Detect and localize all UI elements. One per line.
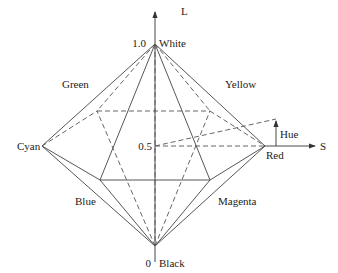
vertex-white-label: White (159, 37, 186, 49)
hexagon-front-edges (42, 146, 265, 180)
tick-0: 0 (146, 257, 152, 269)
vertex-green-label: Green (62, 78, 89, 90)
lower-cone-edges (42, 111, 265, 246)
hue-label: Hue (280, 128, 298, 140)
vertex-black-label: Black (159, 257, 185, 269)
l-axis-label: L (181, 5, 188, 17)
vertex-cyan-label: Cyan (17, 140, 41, 152)
vertex-red-label: Red (266, 149, 284, 161)
upper-cone-edges (42, 44, 265, 180)
vertex-yellow-label: Yellow (225, 78, 256, 90)
center-radii (155, 44, 276, 246)
tick-1-0: 1.0 (132, 37, 146, 49)
s-axis-label: S (320, 140, 326, 152)
tick-0-5: 0.5 (138, 140, 152, 152)
vertex-blue-label: Blue (75, 195, 96, 207)
vertex-magenta-label: Magenta (218, 195, 257, 207)
hls-hexcone-diagram: L 1.0 White Green Yellow Cyan 0.5 Hue Re… (0, 0, 338, 273)
